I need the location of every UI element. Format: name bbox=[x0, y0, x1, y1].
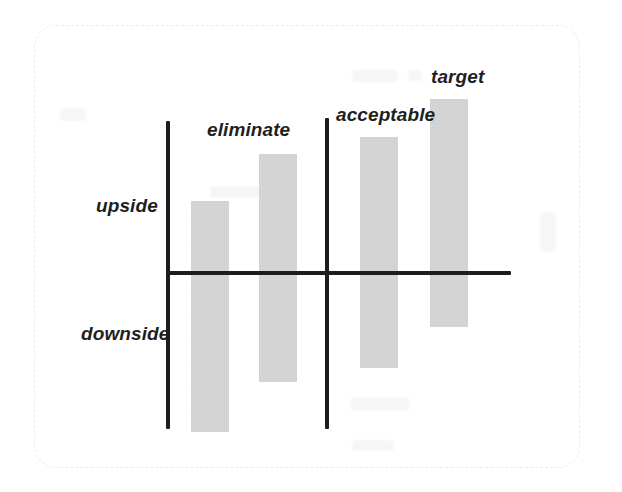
category-label-target: target bbox=[431, 67, 484, 86]
figure-border bbox=[34, 25, 580, 468]
scan-artifact bbox=[352, 440, 394, 451]
scan-artifact bbox=[60, 108, 86, 121]
axis-label-downside: downside bbox=[81, 324, 169, 343]
bar-eliminate-1 bbox=[191, 201, 229, 432]
y-axis-left bbox=[166, 121, 170, 429]
scan-artifact bbox=[352, 70, 398, 82]
category-label-eliminate: eliminate bbox=[207, 120, 290, 139]
category-label-acceptable: acceptable bbox=[336, 105, 435, 124]
bar-target-1 bbox=[430, 99, 468, 327]
bar-acceptable-1 bbox=[360, 137, 398, 368]
scan-artifact bbox=[408, 70, 422, 81]
scan-artifact bbox=[540, 212, 556, 252]
bar-eliminate-2 bbox=[259, 154, 297, 382]
scan-artifact bbox=[350, 398, 410, 410]
axis-label-upside: upside bbox=[96, 196, 158, 215]
chart-canvas: upside downside eliminate acceptable tar… bbox=[0, 0, 622, 492]
x-axis-baseline bbox=[166, 271, 511, 275]
